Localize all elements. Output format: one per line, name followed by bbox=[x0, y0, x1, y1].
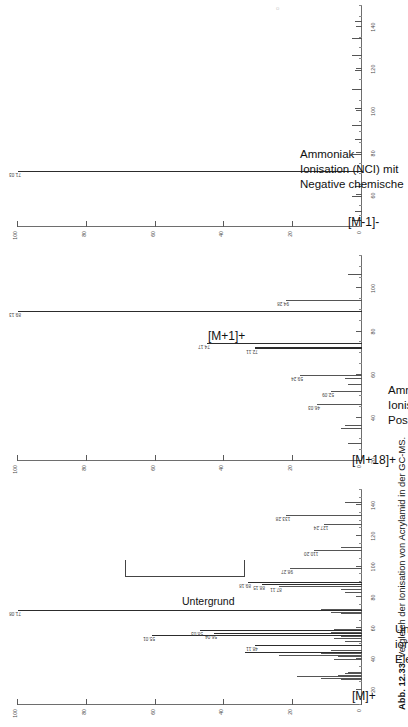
figure-caption: Abb. 12.33 Vergleich der Ionisation von … bbox=[396, 437, 407, 710]
panel-ei: 2040608010012014002040608010048.1155.015… bbox=[0, 484, 408, 727]
mz-tick-label: 100 bbox=[370, 107, 376, 116]
spectrum-peak bbox=[18, 610, 362, 611]
annotation-method-line-3: Ammoniak bbox=[388, 383, 408, 398]
mz-tick-label: 80 bbox=[370, 594, 376, 600]
mz-tick-minor bbox=[359, 121, 362, 122]
mz-tick-minor bbox=[359, 438, 362, 439]
annotation-method-line-3: Ammoniak bbox=[300, 147, 354, 162]
intensity-axis-ei bbox=[18, 704, 362, 705]
spectrum-peak bbox=[200, 630, 362, 631]
spectrum-peak bbox=[345, 425, 362, 426]
spectrum-peak bbox=[341, 636, 362, 637]
spectrum-peak bbox=[338, 656, 362, 657]
annotation-method-line-2: Ionisation (PCI) mit bbox=[388, 398, 408, 413]
mz-tick-minor bbox=[359, 142, 362, 143]
mz-tick-minor bbox=[359, 363, 362, 364]
spectrum-peak bbox=[352, 38, 362, 39]
mz-tick bbox=[356, 152, 362, 153]
intensity-tick-label: 80 bbox=[81, 465, 87, 471]
intensity-tick bbox=[86, 699, 87, 705]
peak-label: 55.01 bbox=[143, 636, 155, 641]
spectrum-peak bbox=[334, 659, 362, 660]
spectrum-peak bbox=[352, 196, 362, 197]
mz-tick-minor bbox=[359, 320, 362, 321]
mz-tick-minor bbox=[359, 352, 362, 353]
untergrund-label: Untergrund bbox=[182, 595, 235, 607]
spectrum-peak bbox=[321, 678, 362, 679]
mz-tick-minor bbox=[359, 100, 362, 101]
spectrum-peak bbox=[341, 589, 362, 590]
spectrum-peak bbox=[355, 140, 362, 141]
mz-tick-minor bbox=[359, 406, 362, 407]
mz-tick bbox=[356, 194, 362, 195]
mz-tick-label: 40 bbox=[370, 656, 376, 662]
caption-space bbox=[396, 658, 407, 663]
spectrum-peak bbox=[321, 653, 362, 654]
plot-area-pci: 2040608010002040608010046.0352.0959.2472… bbox=[18, 256, 362, 461]
peak-label: 56.04 bbox=[205, 634, 217, 639]
intensity-tick-label: 100 bbox=[12, 709, 18, 718]
spectrum-peak bbox=[331, 612, 362, 613]
spectrum-peak bbox=[248, 582, 362, 583]
mz-tick-minor bbox=[359, 497, 362, 498]
mz-tick-minor bbox=[359, 512, 362, 513]
mz-tick-label: 140 bbox=[370, 501, 376, 510]
spectrum-peak bbox=[348, 443, 362, 444]
intensity-tick-label: 40 bbox=[218, 231, 224, 237]
spectrum-peak bbox=[348, 274, 362, 275]
spectrum-peak bbox=[279, 655, 362, 656]
intensity-tick bbox=[17, 455, 18, 461]
spectrum-peak bbox=[345, 673, 362, 674]
spectrum-peak bbox=[341, 428, 362, 429]
intensity-tick bbox=[223, 221, 224, 227]
spectrum-peak bbox=[341, 679, 362, 680]
spectrum-peak bbox=[286, 515, 362, 516]
peak-label: 58.03 bbox=[191, 631, 203, 636]
mz-tick-label: 60 bbox=[370, 372, 376, 378]
peak-label: 59.24 bbox=[291, 376, 303, 381]
spectrum-peak bbox=[262, 584, 362, 585]
mz-tick-minor bbox=[359, 573, 362, 574]
spectrum-peak bbox=[18, 311, 362, 312]
spectrum-peak bbox=[334, 629, 362, 630]
mz-tick-label: 60 bbox=[370, 192, 376, 198]
spectrum-peak bbox=[338, 675, 362, 676]
spectrum-peak bbox=[300, 375, 362, 376]
spectrum-peak bbox=[345, 641, 362, 642]
spectrum-peak bbox=[331, 391, 362, 392]
spectrum-peak bbox=[352, 89, 362, 90]
intensity-tick bbox=[86, 455, 87, 461]
spectrum-peak bbox=[355, 211, 362, 212]
spectrum-peak bbox=[348, 672, 362, 673]
intensity-tick bbox=[86, 221, 87, 227]
spectrum-peak bbox=[345, 378, 362, 379]
mz-tick bbox=[356, 287, 362, 288]
figure-caption-wrapper: Abb. 12.33 Vergleich der Ionisation von … bbox=[384, 421, 406, 721]
annotation-secondary-ion-pci: [M+1]+ bbox=[208, 329, 245, 345]
spectrum-peak bbox=[331, 650, 362, 651]
spectrum-peak bbox=[355, 70, 362, 71]
mz-tick bbox=[356, 566, 362, 567]
peak-label: 88.15 bbox=[253, 585, 265, 590]
mz-tick-minor bbox=[359, 58, 362, 59]
mz-tick-label: 100 bbox=[370, 284, 376, 293]
spectrum-peak bbox=[321, 609, 362, 610]
spectrum-peak bbox=[255, 645, 362, 646]
peak-label: 89.13 bbox=[9, 312, 21, 317]
panel-pci: 2040608010002040608010046.0352.0959.2472… bbox=[0, 250, 408, 483]
intensity-tick-label: 100 bbox=[12, 231, 18, 240]
spectrum-peak bbox=[355, 108, 362, 109]
peak-label: 89.18 bbox=[239, 583, 251, 588]
mz-tick-label: 120 bbox=[370, 65, 376, 74]
intensity-tick-label: 40 bbox=[218, 709, 224, 715]
spectrum-peak bbox=[317, 404, 362, 405]
annotation-method-line-2: Ionisation (NCI) mit bbox=[300, 162, 398, 177]
intensity-tick-label: 40 bbox=[218, 465, 224, 471]
spectrum-peak bbox=[334, 638, 362, 639]
spectrum-peak bbox=[152, 635, 362, 636]
mz-tick-label: 140 bbox=[370, 22, 376, 31]
intensity-tick bbox=[292, 455, 293, 461]
mz-tick-minor bbox=[359, 277, 362, 278]
mz-tick-minor bbox=[359, 543, 362, 544]
spectrum-peak bbox=[345, 502, 362, 503]
